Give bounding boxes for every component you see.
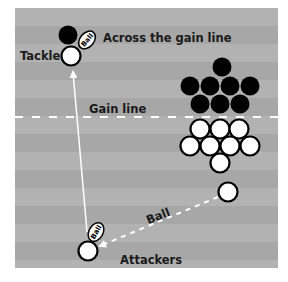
defender-player <box>201 77 220 96</box>
defender-player <box>231 95 250 114</box>
defender-player <box>241 77 260 96</box>
attacker-player <box>211 154 230 173</box>
defender-player <box>181 77 200 96</box>
tackle-label: Tackle <box>20 49 61 63</box>
attacker-player <box>191 120 210 139</box>
pitch-stripe <box>15 188 278 206</box>
pitch-stripe <box>15 8 278 26</box>
attacker-player <box>230 120 249 139</box>
pitch-stripe <box>15 224 278 242</box>
ball-carrier-player <box>79 242 98 261</box>
tackled-attacker <box>62 47 81 66</box>
attacker-player <box>211 120 230 139</box>
attacker-player <box>221 137 240 156</box>
passer-player <box>219 183 238 202</box>
attackers-label: Attackers <box>120 253 182 267</box>
defender-player <box>221 77 240 96</box>
diagram-canvas: Ball Ball Across the gain line Tackle Ga… <box>0 0 288 282</box>
pitch-stripe <box>15 152 278 170</box>
rugby-diagram: Ball Ball Across the gain line Tackle Ga… <box>0 0 288 282</box>
defender-player <box>191 95 210 114</box>
pitch-stripe <box>15 62 278 80</box>
attacker-player <box>201 137 220 156</box>
attacker-player <box>181 137 200 156</box>
pitch-stripe <box>15 170 278 188</box>
across-gain-line-label: Across the gain line <box>103 31 232 45</box>
tackling-defender <box>59 26 78 45</box>
defender-player <box>211 95 230 114</box>
defender-player <box>213 58 232 77</box>
attacker-player <box>241 137 260 156</box>
gain-line-label: Gain line <box>89 102 146 116</box>
